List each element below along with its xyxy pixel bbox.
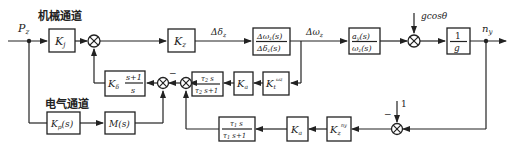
tau2-washout-block: τ2 s τ2 s+1 [192,72,223,96]
input-label: Pz [17,22,29,36]
svg-text:s: s [131,86,135,95]
svg-text:ωz(s): ωz(s) [352,44,372,53]
mech-channel-label: 机械通道 [38,9,82,23]
summing-junction-3 [181,78,192,89]
gravity-label: gcosθ [421,11,448,21]
kdelta-pi-block: Kδ s+1 s [105,71,145,96]
summing-junction-1 [88,35,100,47]
ay-transfer-block: ay(s) ωz(s) [349,28,380,54]
omega-transfer-block: Δωz(s) Δδz(s) [253,28,290,55]
kt-omega-block: Ktωz [263,72,289,95]
summing-junction-2 [158,78,169,89]
svg-text:M(s): M(s) [108,119,130,129]
summing-junction-gravity [408,35,420,47]
kz-block: Kz [168,29,195,52]
control-block-diagram: 机械通道 Pz Kj Kz Δδz Δωz(s) Δδz(s) Δωz ay(s… [0,0,513,152]
minus-sign-bottom: − [384,109,392,119]
svg-text:s+1: s+1 [126,73,142,82]
ka-top-block: Ka [234,72,253,95]
svg-text:1: 1 [455,31,461,41]
inverse-g-block: 1 g [447,28,470,54]
svg-text:τ1 s+1: τ1 s+1 [223,132,246,140]
svg-text:τ2 s+1: τ2 s+1 [195,87,218,95]
svg-text:Δωz(s): Δωz(s) [256,32,282,41]
delta-omega-label: Δωz [305,27,324,38]
minus-sign-top: − [169,68,177,78]
tau1-washout-block: τ1 s τ1 s+1 [219,117,255,141]
svg-text:τ2 s: τ2 s [201,75,214,83]
svg-text:τ1 s: τ1 s [230,120,243,128]
ka-bottom-block: Ka [287,117,308,141]
kz-ny-block: Kzny [327,117,351,141]
kp-block: Kp(s) [47,112,80,134]
svg-text:ay(s): ay(s) [352,32,370,42]
m-block: M(s) [105,112,135,134]
unit-reference-label: 1 [401,99,407,109]
output-label: ny [482,23,493,36]
svg-text:g: g [454,43,460,53]
delta-delta-label: Δδz [210,27,227,38]
summing-junction-load [392,124,403,135]
kj-block: Kj [49,29,75,52]
elec-channel-label: 电气通道 [45,97,89,111]
